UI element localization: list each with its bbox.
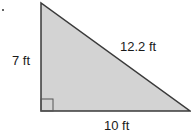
triangle-shape: [41, 3, 190, 111]
hypotenuse-label: 12.2 ft: [120, 40, 156, 53]
horizontal-leg-label: 10 ft: [104, 119, 129, 132]
vertical-leg-label: 7 ft: [12, 54, 30, 67]
right-triangle-diagram: [0, 0, 191, 138]
